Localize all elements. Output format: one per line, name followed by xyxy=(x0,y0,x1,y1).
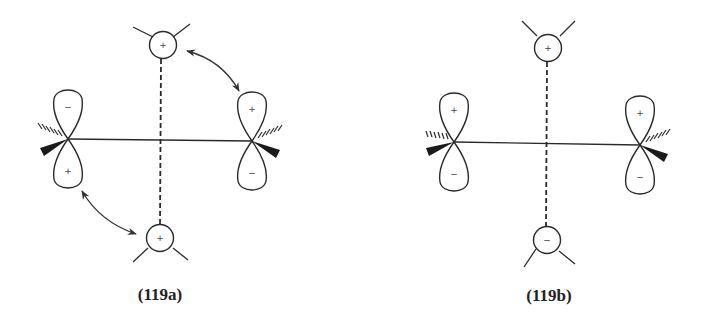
bottom-group: − xyxy=(524,227,575,268)
orbital-sign: − xyxy=(450,169,458,179)
dashed-line xyxy=(546,62,547,226)
bottom-group: + xyxy=(133,225,188,263)
orbital-sign: + xyxy=(248,104,256,114)
orbital-sign: − xyxy=(248,168,256,178)
top-group: + xyxy=(522,21,575,62)
top-group: + xyxy=(133,24,190,59)
orbital-sign: − xyxy=(636,172,644,182)
group-sign: + xyxy=(544,43,552,53)
dashed-line xyxy=(160,59,161,224)
orbital-sign: + xyxy=(636,108,644,118)
hashed-bond-icon xyxy=(646,129,670,142)
orbital-diagrams: − + + − + xyxy=(0,0,702,319)
orbital-sign: − xyxy=(64,102,72,112)
orbital-sign: + xyxy=(450,105,458,115)
diagram-label: (119a) xyxy=(138,285,182,304)
hashed-bond-icon xyxy=(426,131,448,139)
group-sign: + xyxy=(159,40,167,50)
diagram-label: (119b) xyxy=(526,286,571,305)
diagram-119a: − + + − + xyxy=(38,24,282,304)
hashed-bond-icon xyxy=(38,123,62,136)
interaction-arrow xyxy=(82,191,136,234)
group-sign: − xyxy=(543,235,551,245)
diagram-119b: + − + − + xyxy=(426,21,670,305)
interaction-arrow xyxy=(187,51,239,91)
orbital-sign: + xyxy=(64,166,72,176)
group-sign: + xyxy=(156,233,164,243)
hashed-bond-icon xyxy=(258,125,282,138)
